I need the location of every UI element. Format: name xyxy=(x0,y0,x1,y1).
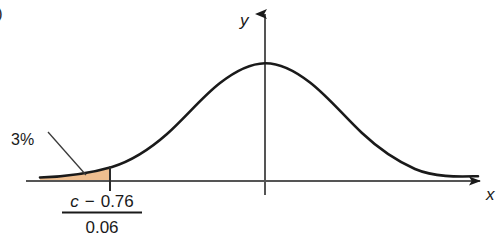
boundary-fraction-denominator: 0.06 xyxy=(85,218,118,237)
normal-distribution-figure: 3% c−0.76 0.06 y x ) xyxy=(0,0,504,246)
fraction-numerator-value: 0.76 xyxy=(101,192,134,211)
tail-percent-leader-line xyxy=(48,132,86,175)
fraction-operator: − xyxy=(85,192,95,211)
tail-percent-label: 3% xyxy=(11,131,34,148)
boundary-fraction-numerator: c−0.76 xyxy=(70,192,134,211)
item-marker: ) xyxy=(0,4,3,23)
fraction-variable: c xyxy=(70,192,79,211)
normal-density-curve xyxy=(40,63,478,177)
y-axis-label: y xyxy=(239,11,250,30)
x-axis-label: x xyxy=(485,185,495,204)
figure-container: 3% c−0.76 0.06 y x ) xyxy=(0,0,504,246)
